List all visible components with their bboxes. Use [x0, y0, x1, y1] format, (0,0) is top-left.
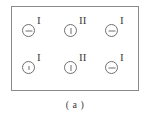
vertical-tick-icon — [70, 28, 71, 34]
figure-root: I II I I — [0, 0, 150, 125]
roman-numeral-label: I — [37, 52, 41, 63]
figure-caption: ( a ) — [0, 99, 150, 111]
roman-numeral-label: I — [37, 15, 41, 26]
horizontal-dash-icon — [25, 30, 32, 31]
roman-numeral-label: I — [120, 15, 124, 26]
horizontal-dash-icon — [108, 67, 115, 68]
circle-icon — [64, 61, 77, 74]
roman-numeral-label: I — [120, 52, 124, 63]
diagram-panel: I II I I — [11, 6, 139, 91]
roman-numeral-label: II — [79, 52, 86, 63]
short-vertical-tick-icon — [28, 66, 29, 70]
circle-icon — [22, 61, 35, 74]
roman-numeral-label: II — [79, 15, 86, 26]
circle-icon — [22, 24, 35, 37]
circle-icon — [64, 24, 77, 37]
vertical-tick-icon — [70, 65, 71, 71]
horizontal-dash-icon — [108, 30, 115, 31]
circle-icon — [105, 24, 118, 37]
circle-icon — [105, 61, 118, 74]
